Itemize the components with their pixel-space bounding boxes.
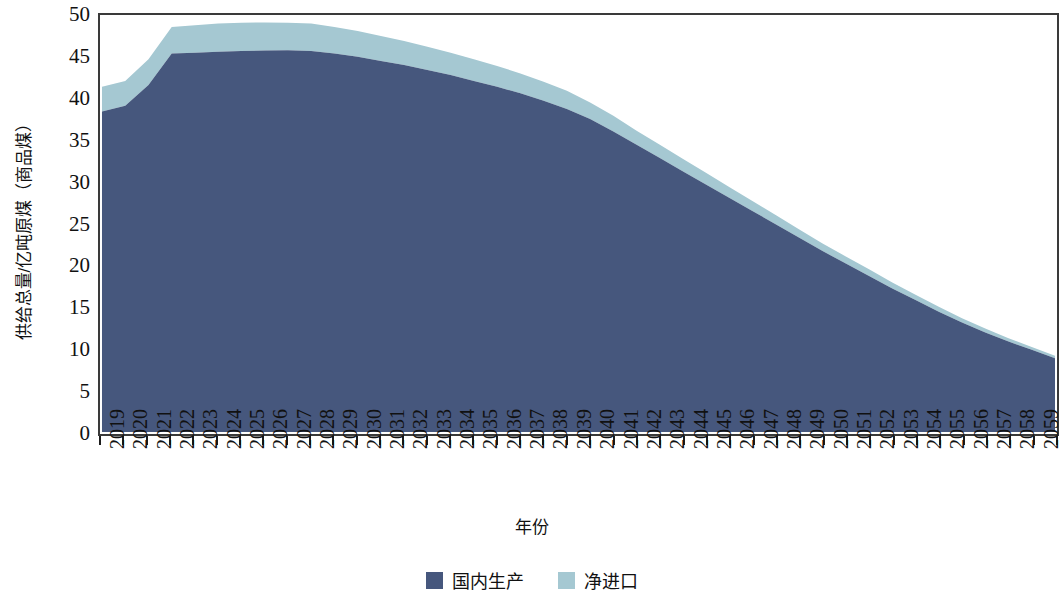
x-axis-tick-label: 2019 <box>107 409 127 449</box>
legend-swatch-import-icon <box>558 572 575 589</box>
x-axis-tick-label: 2052 <box>877 409 897 449</box>
x-axis-tick-label: 2056 <box>971 409 991 449</box>
x-axis-tick-label: 2032 <box>410 409 430 449</box>
x-axis-tick-label: 2049 <box>807 409 827 449</box>
x-axis-tick-label: 2053 <box>901 409 921 449</box>
x-axis-tick-label: 2021 <box>154 409 174 449</box>
area-series-svg <box>100 15 1057 434</box>
x-axis-tick-label: 2044 <box>691 409 711 449</box>
x-axis-tick-label: 2022 <box>177 409 197 449</box>
x-axis-tick-label: 2036 <box>504 409 524 449</box>
x-axis-tick-label: 2023 <box>200 409 220 449</box>
y-axis-tick-label: 10 <box>34 339 90 360</box>
x-axis-tick-label: 2042 <box>644 409 664 449</box>
y-axis-title: 供给总量/亿吨原煤（商品煤） <box>10 63 35 393</box>
y-axis-tick-labels: 05101520253035404550 <box>34 0 90 445</box>
legend-item-import: 净进口 <box>558 567 638 593</box>
y-axis-tick-label: 45 <box>34 46 90 67</box>
x-axis-tick-label: 2031 <box>387 409 407 449</box>
x-axis-tick-label: 2048 <box>784 409 804 449</box>
legend-label-import: 净进口 <box>584 567 638 593</box>
x-axis-tick-label: 2050 <box>831 409 851 449</box>
x-axis-tick-label: 2046 <box>737 409 757 449</box>
x-axis-tick-label: 2045 <box>714 409 734 449</box>
y-axis-tick-label: 15 <box>34 297 90 318</box>
x-axis-tick-label: 2024 <box>224 409 244 449</box>
x-axis-tick-mark <box>99 436 101 445</box>
y-axis-tick-label: 20 <box>34 255 90 276</box>
x-axis-tick-label: 2054 <box>924 409 944 449</box>
x-axis-tick-label: 2040 <box>597 409 617 449</box>
y-axis-tick-label: 35 <box>34 130 90 151</box>
y-axis-tick-label: 25 <box>34 214 90 235</box>
x-axis-tick-label: 2039 <box>574 409 594 449</box>
x-axis-tick-label: 2059 <box>1041 409 1061 449</box>
x-axis-tick-label: 2038 <box>550 409 570 449</box>
x-axis-tick-label: 2028 <box>317 409 337 449</box>
x-axis-tick-label: 2055 <box>947 409 967 449</box>
x-axis-tick-label: 2035 <box>480 409 500 449</box>
plot-area <box>98 13 1059 436</box>
y-axis-tick-label: 40 <box>34 88 90 109</box>
y-axis-tick-label: 0 <box>34 423 90 444</box>
x-axis-tick-label: 2033 <box>434 409 454 449</box>
x-axis-tick-label: 2030 <box>364 409 384 449</box>
y-axis-tick-label: 50 <box>34 4 90 25</box>
x-axis-tick-label: 2047 <box>761 409 781 449</box>
x-axis-tick-label: 2026 <box>270 409 290 449</box>
x-axis-tick-label: 2043 <box>667 409 687 449</box>
x-axis-tick-label: 2041 <box>621 409 641 449</box>
x-axis-tick-label: 2057 <box>994 409 1014 449</box>
stacked-area-chart: 供给总量/亿吨原煤（商品煤） 05101520253035404550 2019… <box>0 0 1063 595</box>
legend-label-domestic: 国内生产 <box>452 567 524 593</box>
y-axis-tick-label: 30 <box>34 172 90 193</box>
y-axis-tick-label: 5 <box>34 381 90 402</box>
x-axis-tick-label: 2020 <box>130 409 150 449</box>
x-axis-tick-label: 2037 <box>527 409 547 449</box>
x-axis-tick-label: 2029 <box>340 409 360 449</box>
chart-legend: 国内生产 净进口 <box>0 567 1063 593</box>
legend-swatch-domestic-icon <box>426 572 443 589</box>
x-axis-tick-label: 2034 <box>457 409 477 449</box>
x-axis-tick-label: 2058 <box>1017 409 1037 449</box>
legend-item-domestic: 国内生产 <box>426 567 524 593</box>
x-axis-tick-label: 2051 <box>854 409 874 449</box>
x-axis-title: 年份 <box>0 513 1063 538</box>
x-axis-tick-label: 2027 <box>294 409 314 449</box>
x-axis-tick-label: 2025 <box>247 409 267 449</box>
